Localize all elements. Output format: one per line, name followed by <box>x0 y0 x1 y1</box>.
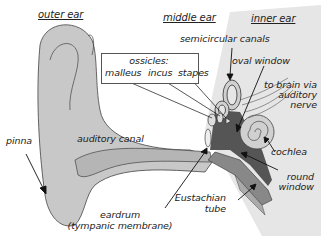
eustachian-label-1: Eustachian <box>170 193 226 203</box>
ossicles-label: ossicles: <box>101 56 197 66</box>
inner-ear-heading: inner ear <box>251 14 295 24</box>
incus-label: incus <box>148 68 172 78</box>
auditory-canal-label: auditory canal <box>77 134 144 144</box>
eardrum-label-1: eardrum <box>65 210 175 220</box>
pinna-label: pinna <box>6 136 32 146</box>
cochlea-shape <box>240 115 274 149</box>
malleus-label: malleus <box>105 68 141 78</box>
eardrum-label-2: (tympanic membrane) <box>65 221 175 231</box>
ear-illustration <box>0 0 321 236</box>
ear-anatomy-diagram: outer ear middle ear inner ear semicircu… <box>0 0 321 236</box>
eardrum-shape <box>205 129 211 147</box>
semicircular-canals-label: semicircular canals <box>180 34 270 44</box>
middle-ear-heading: middle ear <box>163 13 216 23</box>
eustachian-label-2: tube <box>170 204 226 214</box>
oval-window-label: oval window <box>232 56 290 66</box>
to-brain-label-3: nerve <box>260 100 317 110</box>
round-window-label-2: window <box>270 182 314 192</box>
outer-ear-heading: outer ear <box>38 10 83 20</box>
stapes-label: stapes <box>178 68 209 78</box>
cochlea-label: cochlea <box>271 147 307 157</box>
